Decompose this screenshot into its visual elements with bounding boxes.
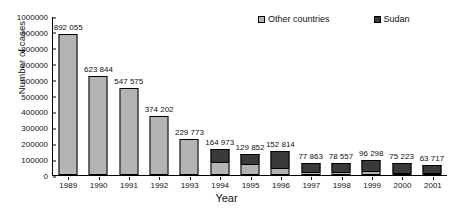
x-axis-tick-label: 1995: [235, 177, 265, 190]
x-axis-tick-label: 1993: [175, 177, 205, 190]
bar-slot: 374 202: [144, 17, 174, 175]
bar-segment-other-countries[interactable]: [392, 173, 411, 175]
plot-area: 0100000200000300000400000500000600000700…: [52, 17, 447, 176]
bar-column[interactable]: 129 852: [241, 154, 260, 175]
bar-column[interactable]: 75 223: [392, 163, 411, 175]
x-axis-title: Year: [0, 192, 453, 204]
bar-segment-other-countries[interactable]: [59, 34, 78, 175]
y-axis-tick-label: 200000: [21, 140, 52, 149]
bar-slot: 547 575: [114, 17, 144, 175]
bar-segment-sudan[interactable]: [210, 149, 229, 162]
bar-value-label: 78 557: [329, 152, 353, 161]
bar-value-label: 547 575: [114, 77, 143, 86]
bar-value-label: 63 717: [420, 154, 444, 163]
bar-column[interactable]: 547 575: [119, 88, 138, 175]
bar-column[interactable]: 374 202: [150, 116, 169, 175]
bar-column[interactable]: 229 773: [180, 139, 199, 175]
bar-segment-sudan[interactable]: [392, 163, 411, 173]
bar-slot: 623 844: [83, 17, 113, 175]
x-axis-tick-label: 2000: [387, 177, 417, 190]
bar-value-label: 77 863: [298, 152, 322, 161]
x-axis-tick-mark: [220, 177, 221, 180]
bar-slot: 229 773: [174, 17, 204, 175]
bar-segment-other-countries[interactable]: [271, 168, 290, 175]
x-axis-tick-mark: [342, 177, 343, 180]
bar-segment-other-countries[interactable]: [89, 76, 108, 175]
bar-column[interactable]: 78 557: [331, 163, 350, 175]
bar-slot: 152 814: [265, 17, 295, 175]
x-axis-tick-label: 1997: [296, 177, 326, 190]
bar-segment-sudan[interactable]: [422, 165, 441, 173]
x-axis-tick-label: 1999: [357, 177, 387, 190]
x-axis-tick-mark: [99, 177, 100, 180]
x-axis-tick-label: 2001: [418, 177, 448, 190]
x-axis-tick-mark: [190, 177, 191, 180]
bar-slot: 75 223: [386, 17, 416, 175]
bar-column[interactable]: 63 717: [422, 165, 441, 175]
x-axis-tick-mark: [311, 177, 312, 180]
x-axis-tick-mark: [372, 177, 373, 180]
bar-slot: 78 557: [326, 17, 356, 175]
chart-container: Number of cases Other countries Sudan 01…: [0, 0, 453, 218]
bar-value-label: 374 202: [145, 105, 174, 114]
bar-series-group: 892 055623 844547 575374 202229 773164 9…: [53, 17, 447, 175]
y-axis-tick-label: 500000: [21, 92, 52, 101]
bar-value-label: 892 055: [54, 23, 83, 32]
bar-segment-other-countries[interactable]: [119, 88, 138, 175]
bar-slot: 96 298: [356, 17, 386, 175]
x-axis-tick-label: 1994: [205, 177, 235, 190]
y-axis-tick-label: 600000: [21, 76, 52, 85]
bar-value-label: 129 852: [236, 143, 265, 152]
bar-slot: 164 973: [205, 17, 235, 175]
y-axis-tick-label: 400000: [21, 108, 52, 117]
bar-column[interactable]: 164 973: [210, 149, 229, 175]
x-axis-tick-mark: [159, 177, 160, 180]
x-axis-tick-mark: [129, 177, 130, 180]
bar-column[interactable]: 152 814: [271, 151, 290, 175]
bar-segment-other-countries[interactable]: [241, 164, 260, 175]
y-axis-tick-label: 100000: [21, 156, 52, 165]
x-axis-tick-mark: [281, 177, 282, 180]
bar-value-label: 623 844: [84, 65, 113, 74]
bar-segment-sudan[interactable]: [241, 154, 260, 163]
bar-value-label: 96 298: [359, 149, 383, 158]
bar-slot: 892 055: [53, 17, 83, 175]
bar-value-label: 164 973: [205, 138, 234, 147]
bar-segment-sudan[interactable]: [301, 163, 320, 172]
bar-value-label: 152 814: [266, 140, 295, 149]
bar-segment-sudan[interactable]: [331, 163, 350, 172]
bar-slot: 77 863: [296, 17, 326, 175]
x-axis-tick-mark: [402, 177, 403, 180]
bar-segment-other-countries[interactable]: [210, 162, 229, 175]
bar-column[interactable]: 96 298: [362, 160, 381, 175]
bar-segment-other-countries[interactable]: [331, 172, 350, 175]
y-axis-tick-label: 1000000: [17, 13, 52, 22]
bar-segment-other-countries[interactable]: [422, 173, 441, 175]
bar-segment-other-countries[interactable]: [150, 116, 169, 175]
y-axis-tick-label: 900000: [21, 28, 52, 37]
x-axis-tick-label: 1996: [266, 177, 296, 190]
bar-segment-sudan[interactable]: [362, 160, 381, 171]
x-axis-tick-mark: [251, 177, 252, 180]
bar-slot: 63 717: [417, 17, 447, 175]
y-axis-tick-label: 0: [44, 172, 52, 181]
bar-segment-other-countries[interactable]: [301, 172, 320, 175]
bar-segment-other-countries[interactable]: [362, 171, 381, 175]
x-axis-tick-mark: [68, 177, 69, 180]
bar-value-label: 75 223: [389, 152, 413, 161]
y-axis-tick-label: 800000: [21, 44, 52, 53]
bar-segment-sudan[interactable]: [271, 151, 290, 168]
x-axis-ticks: 1989199019911992199319941995199619971998…: [53, 177, 448, 190]
bar-value-label: 229 773: [175, 128, 204, 137]
bar-column[interactable]: 77 863: [301, 163, 320, 175]
y-axis-tick-label: 700000: [21, 60, 52, 69]
x-axis-line: [52, 175, 447, 176]
bar-column[interactable]: 892 055: [59, 34, 78, 175]
x-axis-tick-label: 1998: [327, 177, 357, 190]
y-axis-tick-label: 300000: [21, 124, 52, 133]
x-axis-tick-label: 1990: [83, 177, 113, 190]
bar-slot: 129 852: [235, 17, 265, 175]
bar-segment-other-countries[interactable]: [180, 139, 199, 175]
bar-column[interactable]: 623 844: [89, 76, 108, 175]
x-axis-tick-label: 1989: [53, 177, 83, 190]
